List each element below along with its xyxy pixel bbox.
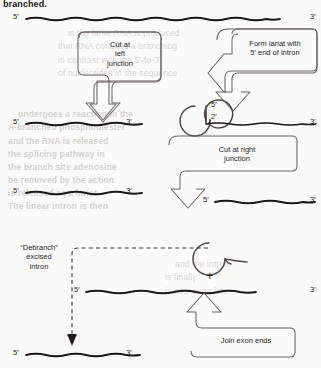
- strand-full-3prime: 3′: [310, 12, 316, 21]
- lariat-2prime-label: 2′: [211, 112, 217, 121]
- page-title-fragment: branched.: [3, 0, 47, 9]
- step-label-cut-right: Cut at right junction: [191, 145, 283, 164]
- strand-left-exon-2: [26, 192, 142, 195]
- strand-debranched-5prime: 5′: [13, 348, 19, 357]
- strand-right-piece: [215, 201, 315, 204]
- strand-debranched-3prime: 3′: [126, 348, 132, 357]
- strand-left-exon-5prime: 5′: [13, 117, 19, 126]
- strand-left-exon2-5prime: 5′: [13, 186, 19, 195]
- step-label-form-lariat: Form lariat with 5′ end of intron: [233, 39, 317, 58]
- strand-right-piece-5prime: 5′: [203, 195, 209, 204]
- debranch-dashed-arrow: [67, 248, 208, 346]
- figure-canvas: is the lariat RNA is produced that RNA c…: [0, 0, 321, 368]
- step-label-cut-left: Cut at left junction: [84, 40, 156, 68]
- lariat-excised: [193, 243, 247, 275]
- strand-full: [26, 18, 280, 21]
- strand-mid-exon-5prime: 5′: [74, 285, 80, 294]
- join-exon-arrow: [187, 293, 295, 357]
- strand-full-5prime: 5′: [13, 12, 19, 21]
- strand-mid-exon-3prime: 3′: [310, 285, 316, 294]
- debranch-arrowhead: [67, 334, 77, 346]
- step-label-debranch: “Debranch” excised intron: [8, 243, 70, 271]
- lariat-structure-top: [180, 100, 316, 136]
- strand-debranched: [26, 354, 140, 357]
- step-label-join-exons: Join exon ends: [204, 336, 288, 345]
- strand-mid-exon: [86, 291, 256, 294]
- strand-left-exon-3prime: 3′: [126, 117, 132, 126]
- strand-left-exon: [26, 123, 142, 126]
- plus-sign: +: [206, 268, 214, 283]
- lariat-5prime-label: 5′: [211, 100, 217, 109]
- lariat-tail-3prime: 3′: [310, 117, 316, 126]
- strand-left-exon2-3prime: 3′: [126, 186, 132, 195]
- strand-right-piece-3prime: 3′: [310, 195, 316, 204]
